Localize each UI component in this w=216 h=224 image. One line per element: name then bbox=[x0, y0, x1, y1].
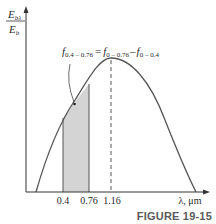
y-label-denominator: Eb bbox=[8, 23, 20, 37]
tick-1-16: 1.16 bbox=[103, 195, 121, 206]
figure-caption: FIGURE 19-15 bbox=[137, 210, 212, 222]
leader-dot bbox=[73, 103, 76, 106]
y-axis-arrow-icon bbox=[24, 6, 29, 13]
x-axis-arrow-icon bbox=[203, 190, 210, 195]
tick-0-4: 0.4 bbox=[57, 195, 70, 206]
equation-label: f0.4 – 0.76=f0 – 0.76–f0 – 0.4 bbox=[62, 45, 159, 59]
blackbody-diagram: Ebλ Eb f0.4 – 0.76=f0 – 0.76–f0 – 0.4 0.… bbox=[0, 0, 216, 224]
y-label-numerator: Ebλ bbox=[7, 8, 21, 22]
x-axis-label: λ, μm bbox=[179, 195, 202, 206]
leader-line bbox=[69, 64, 74, 102]
shaded-band bbox=[63, 84, 89, 192]
spectral-curve bbox=[36, 58, 196, 192]
tick-0-76: 0.76 bbox=[80, 195, 98, 206]
